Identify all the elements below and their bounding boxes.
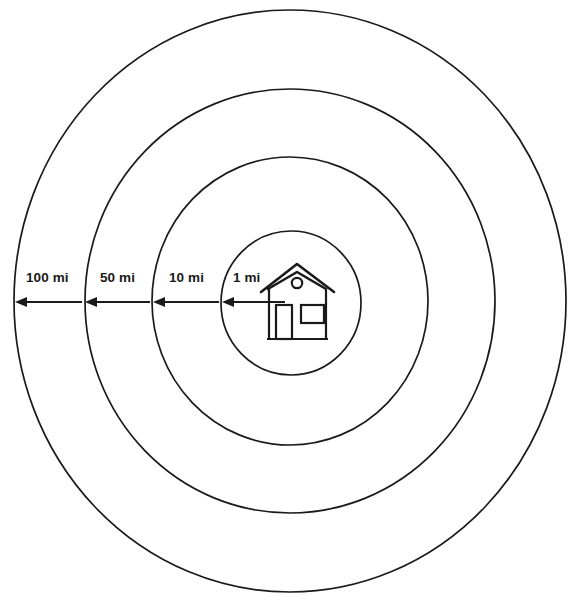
arrow-100-mi bbox=[15, 297, 82, 307]
diagram-canvas: 100 mi 50 mi 10 mi 1 mi bbox=[0, 0, 574, 613]
radius-rings-diagram bbox=[0, 0, 574, 613]
arrow-50-mi bbox=[85, 297, 150, 307]
house-round-window-icon bbox=[292, 278, 302, 288]
ring-label-10-mi: 10 mi bbox=[169, 271, 204, 285]
ring-label-1-mi: 1 mi bbox=[233, 271, 260, 285]
arrow-10-mi bbox=[153, 297, 219, 307]
ring-label-50-mi: 50 mi bbox=[100, 271, 135, 285]
house-window-icon bbox=[301, 305, 324, 323]
ring-label-100-mi: 100 mi bbox=[26, 271, 69, 285]
house-door-icon bbox=[276, 305, 292, 339]
